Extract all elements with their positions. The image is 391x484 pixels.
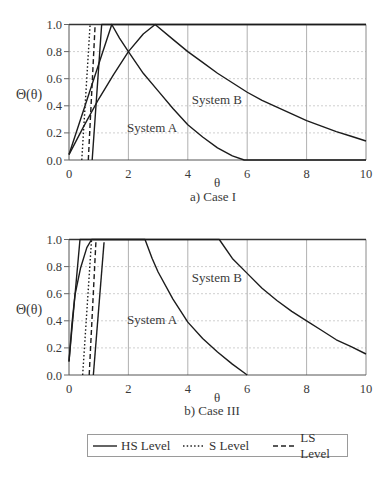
- x-tick-label: 4: [185, 167, 192, 181]
- y-tick-label: 0.4: [46, 99, 62, 113]
- dotted-line-icon: [183, 443, 205, 449]
- legend-item-hs-level: HS Level: [93, 438, 170, 454]
- y-tick-label: 1.0: [46, 18, 62, 32]
- y-tick-label: 0.6: [46, 287, 62, 301]
- x-tick-label: 4: [185, 382, 192, 396]
- y-axis-label-case-i: Θ(θ): [16, 87, 42, 103]
- series-system-b-hs-level: [69, 240, 366, 362]
- y-tick-label: 0.4: [46, 314, 62, 328]
- legend-item-ls-level: LS Level: [273, 438, 347, 454]
- legend-label: S Level: [209, 438, 249, 454]
- x-tick-label: 10: [360, 382, 373, 396]
- legend-label: HS Level: [121, 438, 170, 454]
- legend: HS Level S Level LS Level: [87, 434, 348, 457]
- y-tick-label: 0.0: [46, 369, 62, 383]
- legend-label: LS Level: [300, 430, 347, 462]
- y-tick-label: 0.8: [46, 45, 62, 59]
- y-tick-label: 0.2: [46, 341, 62, 355]
- plot-case-iii: 0.00.20.40.60.81.00246810System ASystem …: [46, 233, 372, 396]
- series-system-a-hs-level: [69, 240, 247, 376]
- y-axis-label-case-iii: Θ(θ): [16, 302, 42, 318]
- dashed-line-icon: [273, 443, 296, 449]
- annotation-system-a: System A: [127, 312, 178, 327]
- legend-item-s-level: S Level: [183, 438, 249, 454]
- annotation-system-a: System A: [127, 120, 178, 135]
- x-tick-label: 0: [66, 382, 72, 396]
- annotation-system-b: System B: [192, 92, 243, 107]
- x-tick-label: 6: [244, 167, 250, 181]
- x-tick-label: 10: [360, 167, 373, 181]
- x-tick-label: 2: [125, 167, 131, 181]
- series-system-b-hs-level: [69, 25, 366, 155]
- x-tick-label: 2: [125, 382, 131, 396]
- y-tick-label: 1.0: [46, 233, 62, 247]
- y-tick-label: 0.6: [46, 72, 62, 86]
- annotation-system-b: System B: [192, 270, 243, 285]
- plot-case-i: 0.00.20.40.60.81.00246810System ASystem …: [46, 18, 372, 181]
- y-tick-label: 0.8: [46, 260, 62, 274]
- x-tick-label: 8: [303, 167, 309, 181]
- solid-line-icon: [93, 443, 117, 449]
- y-tick-label: 0.2: [46, 126, 62, 140]
- caption-case-i: a) Case I: [190, 189, 236, 205]
- x-tick-label: 8: [303, 382, 309, 396]
- x-tick-label: 0: [66, 167, 72, 181]
- x-tick-label: 6: [244, 382, 250, 396]
- caption-case-iii: b) Case III: [184, 403, 240, 419]
- y-tick-label: 0.0: [46, 154, 62, 168]
